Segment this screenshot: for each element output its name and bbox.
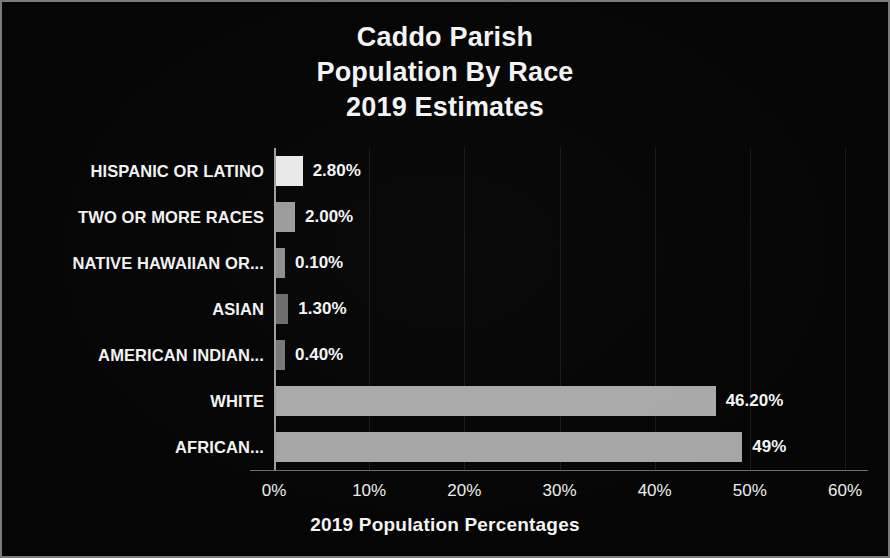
category-label: AMERICAN INDIAN... [98,346,264,365]
bar[interactable] [276,202,295,232]
bar-row: NATIVE HAWAIIAN OR...0.10% [274,240,845,286]
bar[interactable] [276,294,288,324]
bar-row: ASIAN1.30% [274,286,845,332]
bar[interactable] [276,248,285,278]
x-tick-label: 60% [828,481,862,501]
bar-row: TWO OR MORE RACES2.00% [274,194,845,240]
bar-value-label: 1.30% [298,299,346,319]
x-tick-label: 30% [542,481,576,501]
chart-title-line-3: 2019 Estimates [2,90,888,125]
gridline-60 [845,148,846,470]
x-tick-label: 40% [638,481,672,501]
bar-row: HISPANIC OR LATINO2.80% [274,148,845,194]
bar-row: WHITE46.20% [274,378,845,424]
x-tick-label: 20% [447,481,481,501]
bar-value-label: 46.20% [726,391,784,411]
category-label: ASIAN [212,300,264,319]
bar[interactable] [276,386,716,416]
bar[interactable] [276,340,285,370]
bar-value-label: 2.00% [305,207,353,227]
chart-title-line-1: Caddo Parish [2,20,888,55]
x-tick-label: 50% [733,481,767,501]
bar-value-label: 0.10% [295,253,343,273]
bar-value-label: 2.80% [313,161,361,181]
x-axis-title: 2019 Population Percentages [2,514,888,536]
bar-row: AMERICAN INDIAN...0.40% [274,332,845,378]
bar-row: AFRICAN...49% [274,424,845,470]
category-label: WHITE [210,392,264,411]
bar-value-label: 0.40% [295,345,343,365]
category-label: AFRICAN... [175,438,264,457]
chart-title: Caddo Parish Population By Race 2019 Est… [2,20,888,125]
category-label: TWO OR MORE RACES [78,208,264,227]
x-axis-line [250,470,868,471]
category-label: HISPANIC OR LATINO [90,162,264,181]
bar-value-label: 49% [752,437,786,457]
chart-container: Caddo Parish Population By Race 2019 Est… [0,0,890,558]
plot-area: HISPANIC OR LATINO2.80%TWO OR MORE RACES… [274,148,845,470]
bar[interactable] [276,156,303,186]
bar[interactable] [276,432,742,462]
chart-title-line-2: Population By Race [2,55,888,90]
x-tick-label: 0% [262,481,287,501]
category-label: NATIVE HAWAIIAN OR... [72,254,264,273]
x-tick-label: 10% [352,481,386,501]
